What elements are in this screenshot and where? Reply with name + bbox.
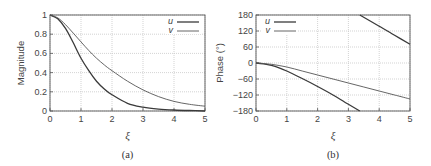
y-tick-label: 0: [248, 58, 253, 68]
y-tick-label: −120: [233, 90, 253, 100]
y-tick-label: 0: [42, 106, 47, 116]
x-axis-label: ξ: [331, 129, 336, 142]
x-tick-label: 0: [253, 114, 258, 124]
panel-caption: (b): [327, 149, 340, 161]
y-tick-label: 1: [42, 10, 47, 20]
x-tick-label: 4: [171, 114, 176, 124]
x-tick-label: 3: [140, 114, 145, 124]
y-tick-label: 0.6: [34, 48, 47, 58]
x-axis-label: ξ: [125, 129, 130, 142]
y-tick-label: 0.2: [34, 87, 47, 97]
x-tick-label: 3: [346, 114, 351, 124]
x-tick-label: 5: [407, 114, 412, 124]
x-tick-label: 1: [284, 114, 289, 124]
x-tick-label: 4: [377, 114, 382, 124]
y-tick-label: 120: [238, 26, 253, 36]
chart-panel-b: 012345−180−120−60060120180ξPhase (°)(b)u…: [214, 10, 413, 161]
legend-label-v: v: [266, 25, 271, 35]
y-axis-label: Phase (°): [214, 43, 225, 83]
y-axis-label: Magnitude: [15, 41, 26, 85]
x-tick-label: 1: [78, 114, 83, 124]
y-tick-label: 0.8: [34, 29, 47, 39]
y-tick-label: −180: [233, 106, 253, 116]
chart-panel-a: 01234500.20.40.60.81ξMagnitude(a)uv: [15, 10, 208, 161]
y-tick-label: 180: [238, 10, 253, 20]
panel-caption: (a): [122, 149, 134, 161]
x-tick-label: 5: [202, 114, 207, 124]
x-tick-label: 0: [47, 114, 52, 124]
legend: uv: [262, 16, 298, 35]
y-tick-label: 0.4: [34, 68, 47, 78]
legend-label-v: v: [169, 25, 174, 35]
y-tick-label: 60: [243, 42, 253, 52]
figure: 01234500.20.40.60.81ξMagnitude(a)uv01234…: [0, 0, 431, 166]
legend: uv: [165, 16, 201, 35]
y-tick-label: −60: [238, 74, 253, 84]
x-tick-label: 2: [109, 114, 114, 124]
x-tick-label: 2: [315, 114, 320, 124]
